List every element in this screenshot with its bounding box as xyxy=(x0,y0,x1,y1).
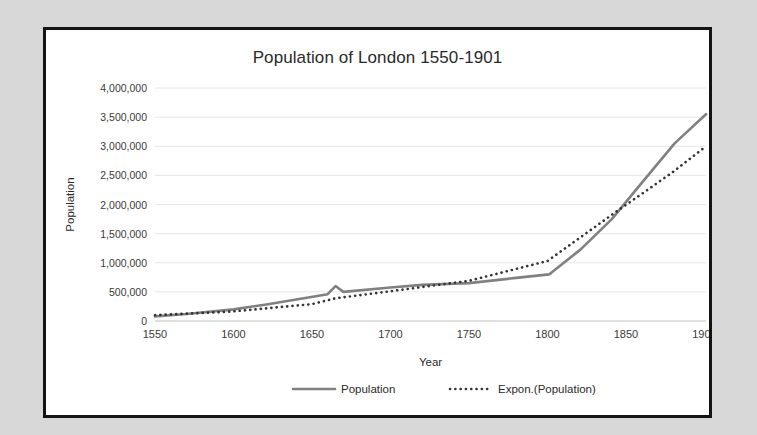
y-tick-label: 0 xyxy=(141,315,147,327)
x-tick-label: 1550 xyxy=(143,328,167,340)
x-axis-tick-labels: 15501600165017001750180018501900 xyxy=(143,328,709,340)
series-line-population xyxy=(155,114,706,316)
x-tick-label: 1600 xyxy=(221,328,245,340)
x-tick-label: 1850 xyxy=(614,328,638,340)
y-tick-label: 4,000,000 xyxy=(100,82,147,94)
y-tick-label: 1,500,000 xyxy=(100,228,147,240)
chart-plot: 0500,0001,000,0001,500,0002,000,0002,500… xyxy=(46,30,709,415)
series-line-expon-population xyxy=(155,146,706,315)
chart-container: Population of London 1550-1901 0500,0001… xyxy=(43,27,712,418)
x-axis-title: Year xyxy=(419,356,442,368)
y-axis-tick-labels: 0500,0001,000,0001,500,0002,000,0002,500… xyxy=(100,82,147,327)
x-tick-label: 1900 xyxy=(692,328,709,340)
legend-label: Population xyxy=(341,383,395,395)
legend-label: Expon.(Population) xyxy=(498,383,596,395)
y-tick-label: 1,000,000 xyxy=(100,257,147,269)
chart-legend: PopulationExpon.(Population) xyxy=(293,383,596,395)
x-tick-label: 1750 xyxy=(457,328,481,340)
x-tick-label: 1800 xyxy=(535,328,559,340)
x-tick-label: 1700 xyxy=(378,328,402,340)
y-tick-label: 3,500,000 xyxy=(100,111,147,123)
y-tick-label: 3,000,000 xyxy=(100,140,147,152)
y-tick-label: 2,000,000 xyxy=(100,199,147,211)
data-series-group xyxy=(155,114,706,316)
y-tick-label: 2,500,000 xyxy=(100,169,147,181)
y-axis-title: Population xyxy=(64,177,76,231)
y-tick-label: 500,000 xyxy=(109,286,147,298)
x-tick-label: 1650 xyxy=(300,328,324,340)
